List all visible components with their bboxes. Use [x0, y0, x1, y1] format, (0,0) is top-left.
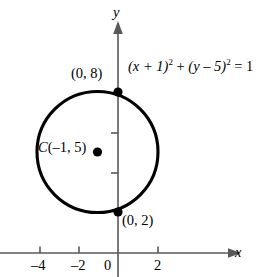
equation-label: (x + 1)2 + (y – 5)2 = 1	[128, 59, 253, 74]
x-tick-label-minus2: –2	[71, 258, 86, 273]
center-label-prefix: C	[38, 139, 48, 155]
point-dot-0-8	[113, 87, 122, 96]
point-dot-center	[93, 147, 102, 156]
circle-graph-figure: (x + 1)2 + (y – 5)2 = 1 (0, 8) (0, 2) C(…	[0, 0, 269, 277]
equation-equals: = 1	[231, 58, 254, 74]
x-tick-label-minus4: –4	[31, 258, 46, 273]
point-label-center: C(–1, 5)	[38, 140, 86, 155]
equation-base-right: (y – 5)	[188, 58, 226, 74]
x-tick-label-2: 2	[154, 258, 161, 273]
center-label-coords: (–1, 5)	[48, 139, 87, 155]
equation-base-left: (x + 1)	[128, 58, 168, 74]
x-tick-label-zero: 0	[104, 258, 111, 273]
equation-operator: +	[173, 58, 188, 74]
y-axis-label: y	[113, 5, 119, 20]
point-label-0-8: (0, 8)	[71, 66, 102, 81]
point-label-0-2: (0, 2)	[122, 213, 153, 228]
x-axis-label: x	[235, 245, 241, 260]
y-axis-arrowhead	[113, 21, 123, 34]
